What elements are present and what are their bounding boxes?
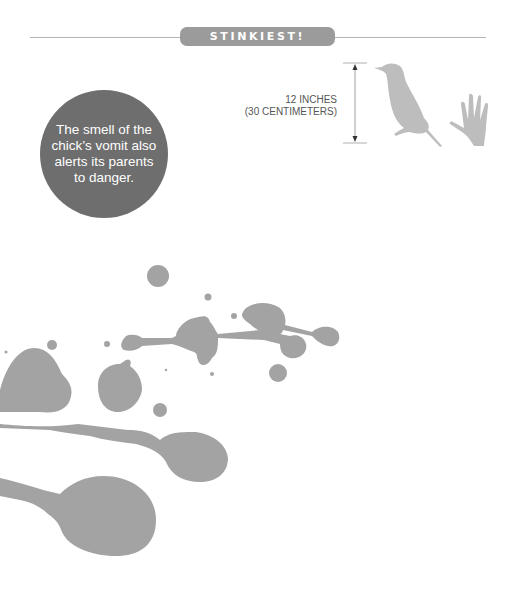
header-rule-left xyxy=(30,37,182,38)
fact-bubble: The smell of the chick’s vomit also aler… xyxy=(40,90,168,218)
height-measure-icon xyxy=(343,62,367,144)
header-rule-right xyxy=(334,37,486,38)
section-badge: STINKIEST! xyxy=(180,27,335,46)
size-comparison xyxy=(370,60,500,150)
fact-text: The smell of the chick’s vomit also aler… xyxy=(49,122,159,186)
hand-silhouette-icon xyxy=(450,94,488,146)
scale-inches: 12 INCHES xyxy=(245,94,337,106)
bird-silhouette-icon xyxy=(374,63,442,147)
scale-centimeters: (30 CENTIMETERS) xyxy=(245,106,337,118)
badge-label: STINKIEST! xyxy=(210,30,305,43)
vomit-splatter-graphic xyxy=(0,250,360,592)
scale-label: 12 INCHES (30 CENTIMETERS) xyxy=(245,94,337,118)
